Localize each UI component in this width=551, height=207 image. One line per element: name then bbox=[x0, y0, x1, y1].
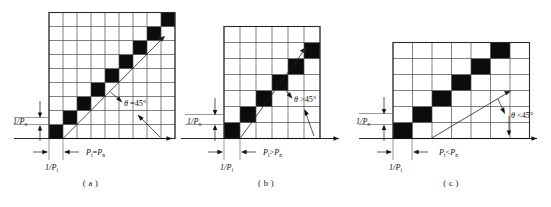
grid-cell-empty bbox=[413, 59, 433, 75]
grid-cell-empty bbox=[471, 75, 491, 91]
grid-cell-empty bbox=[105, 125, 119, 139]
panel-a-small-horizontal-label: 1/Pi bbox=[45, 163, 58, 173]
grid-cell-empty bbox=[161, 111, 175, 125]
grid-cell-empty bbox=[224, 107, 240, 123]
panel-b: 1/Pn 1/Pi Pi>Pn θ >45° ( b ) bbox=[181, 0, 351, 207]
grid-cell-empty bbox=[49, 83, 63, 97]
grid-cell-empty bbox=[91, 55, 105, 69]
grid-cell-empty bbox=[393, 43, 413, 59]
grid-cell-filled bbox=[105, 69, 119, 83]
panel-c: 1/Pn 1/Pi Pi<Pn θ <45° ( c ) bbox=[351, 0, 551, 207]
grid-cell-empty bbox=[288, 123, 304, 139]
grid-cell-empty bbox=[413, 91, 433, 107]
panel-a-horizontal-dimension bbox=[33, 139, 79, 161]
grid-cell-empty bbox=[224, 59, 240, 75]
grid-cell-empty bbox=[119, 125, 133, 139]
grid-cell-empty bbox=[491, 59, 511, 75]
grid-cell-empty bbox=[304, 27, 320, 43]
grid-cell-empty bbox=[77, 13, 91, 27]
grid-cell-empty bbox=[91, 111, 105, 125]
grid-cell-filled bbox=[304, 43, 320, 59]
grid-cell-empty bbox=[224, 43, 240, 59]
grid-cell-filled bbox=[49, 125, 63, 139]
grid-cell-empty bbox=[77, 83, 91, 97]
grid-cell-empty bbox=[272, 107, 288, 123]
grid-cell-empty bbox=[432, 59, 452, 75]
grid-cell-empty bbox=[432, 43, 452, 59]
grid-cell-empty bbox=[133, 69, 147, 83]
grid-cell-empty bbox=[105, 97, 119, 111]
grid-cell-empty bbox=[147, 125, 161, 139]
grid-cell-empty bbox=[133, 83, 147, 97]
grid-cell-empty bbox=[240, 43, 256, 59]
grid-cell-filled bbox=[256, 91, 272, 107]
grid-cell-empty bbox=[161, 69, 175, 83]
grid-cell-empty bbox=[49, 41, 63, 55]
grid-cell-filled bbox=[119, 55, 133, 69]
panel-c-small-horizontal-label: 1/Pi bbox=[389, 163, 402, 173]
grid-cell-empty bbox=[105, 13, 119, 27]
grid-cell-empty bbox=[272, 43, 288, 59]
grid-cell-empty bbox=[432, 75, 452, 91]
grid-cell-empty bbox=[91, 27, 105, 41]
grid-cell-empty bbox=[105, 111, 119, 125]
grid-cell-empty bbox=[413, 123, 433, 139]
grid-cell-empty bbox=[49, 69, 63, 83]
grid-cell-empty bbox=[288, 27, 304, 43]
grid-cell-empty bbox=[393, 91, 413, 107]
grid-cell-empty bbox=[63, 69, 77, 83]
panel-c-caption: ( c ) bbox=[351, 178, 551, 188]
panel-b-figure: 1/Pn 1/Pi Pi>Pn θ >45° bbox=[181, 0, 351, 178]
grid-cell-empty bbox=[224, 75, 240, 91]
grid-cell-empty bbox=[161, 125, 175, 139]
grid-cell-empty bbox=[393, 107, 413, 123]
grid-cell-empty bbox=[91, 41, 105, 55]
grid-cell-filled bbox=[133, 41, 147, 55]
panel-a-angle-label: θ =45° bbox=[124, 99, 146, 108]
grid-cell-filled bbox=[432, 91, 452, 107]
panel-a-grid bbox=[49, 13, 175, 139]
grid-cell-empty bbox=[119, 83, 133, 97]
grid-cell-empty bbox=[147, 111, 161, 125]
grid-cell-empty bbox=[510, 59, 530, 75]
grid-cell-empty bbox=[471, 123, 491, 139]
grid-cell-empty bbox=[161, 83, 175, 97]
grid-cell-empty bbox=[91, 125, 105, 139]
panel-b-grid bbox=[224, 27, 320, 139]
grid-cell-empty bbox=[240, 91, 256, 107]
grid-cell-empty bbox=[272, 91, 288, 107]
grid-cell-empty bbox=[133, 27, 147, 41]
panel-b-small-horizontal-label: 1/Pi bbox=[220, 163, 233, 173]
grid-cell-empty bbox=[49, 97, 63, 111]
panel-b-vertical-label: 1/Pn bbox=[187, 117, 201, 127]
panel-a-vertical-dimension bbox=[38, 101, 42, 141]
panel-b-horizontal-label: Pi>Pn bbox=[262, 148, 282, 158]
grid-cell-empty bbox=[272, 27, 288, 43]
grid-cell-empty bbox=[119, 111, 133, 125]
grid-cell-empty bbox=[471, 91, 491, 107]
panel-b-caption: ( b ) bbox=[181, 178, 351, 188]
grid-cell-empty bbox=[91, 13, 105, 27]
panel-b-angle-label: θ >45° bbox=[294, 95, 316, 104]
grid-cell-empty bbox=[393, 75, 413, 91]
panel-a-vertical-label: 1/Pn bbox=[13, 117, 27, 127]
grid-cell-empty bbox=[105, 41, 119, 55]
grid-cell-empty bbox=[133, 13, 147, 27]
grid-cell-filled bbox=[91, 83, 105, 97]
grid-cell-empty bbox=[161, 97, 175, 111]
grid-cell-empty bbox=[119, 27, 133, 41]
panel-b-horizontal-dimension bbox=[208, 139, 256, 161]
grid-cell-empty bbox=[133, 125, 147, 139]
grid-cell-empty bbox=[147, 83, 161, 97]
grid-cell-empty bbox=[49, 111, 63, 125]
grid-cell-empty bbox=[304, 75, 320, 91]
grid-cell-empty bbox=[63, 41, 77, 55]
grid-cell-empty bbox=[63, 97, 77, 111]
grid-cell-filled bbox=[491, 43, 511, 59]
grid-cell-empty bbox=[105, 55, 119, 69]
grid-cell-filled bbox=[413, 107, 433, 123]
grid-cell-empty bbox=[77, 27, 91, 41]
grid-cell-empty bbox=[91, 69, 105, 83]
panel-a: 1/Pn 1/Pi Pi=Pn θ =45° ( a ) bbox=[0, 0, 181, 207]
grid-cell-empty bbox=[491, 75, 511, 91]
